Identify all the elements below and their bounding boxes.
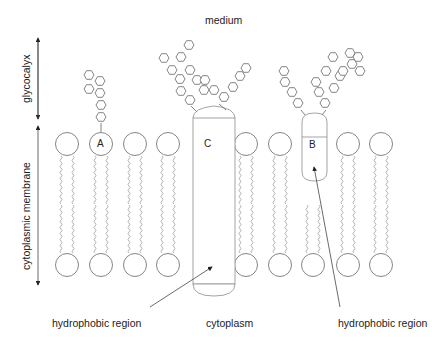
- glycocalyx-label: glycocalyx: [20, 55, 32, 103]
- label-a: A: [97, 138, 104, 149]
- medium-label: medium: [205, 14, 242, 26]
- cytoplasmic-membrane-label: cytoplasmic membrane: [20, 162, 32, 270]
- hydrophobic-region-right-label: hydrophobic region: [338, 317, 427, 329]
- protein-c: [193, 106, 235, 296]
- label-c: C: [204, 138, 211, 149]
- pointer-arrows: [150, 167, 340, 307]
- cytoplasm-label: cytoplasm: [206, 317, 253, 329]
- membrane-diagram: [0, 0, 432, 342]
- label-b: B: [309, 139, 316, 150]
- hydrophobic-region-left-label: hydrophobic region: [52, 317, 141, 329]
- glycolipid-a-sugars: [84, 71, 106, 132]
- protein-c-sugars: [159, 41, 251, 112]
- protein-b-sugars: [279, 49, 365, 115]
